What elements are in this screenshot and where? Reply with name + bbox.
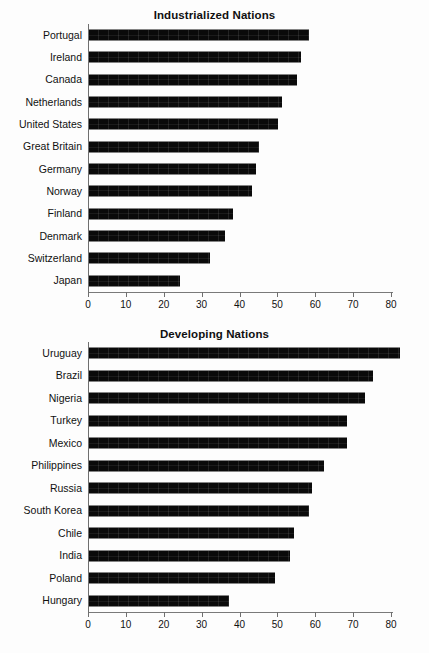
- category-label: India: [0, 550, 82, 561]
- bar-container: [89, 52, 301, 63]
- category-label: Portugal: [0, 30, 82, 41]
- category-label: Uruguay: [0, 348, 82, 359]
- bar: [89, 74, 297, 85]
- category-label: Poland: [0, 573, 82, 584]
- bar-row: Turkey: [0, 411, 429, 431]
- x-axis-tick: [202, 292, 203, 297]
- category-label: Germany: [0, 164, 82, 175]
- x-axis-line: [88, 612, 393, 613]
- category-label: Norway: [0, 186, 82, 197]
- x-axis-tick-label: 40: [234, 299, 245, 311]
- x-axis-tick-label: 80: [385, 299, 396, 311]
- bar-container: [89, 164, 256, 175]
- bar: [89, 253, 210, 264]
- bar-container: [89, 483, 312, 494]
- x-axis-tick-label: 20: [158, 619, 169, 631]
- bar: [89, 348, 400, 359]
- bar-row: Netherlands: [0, 92, 429, 112]
- bar-row: Norway: [0, 181, 429, 201]
- bar-container: [89, 393, 365, 404]
- x-axis-tick: [202, 612, 203, 617]
- x-axis-tick-label: 10: [120, 299, 131, 311]
- x-axis-tick: [277, 292, 278, 297]
- bar-row: United States: [0, 114, 429, 134]
- bar-container: [89, 231, 225, 242]
- bar: [89, 505, 309, 516]
- bar-container: [89, 348, 400, 359]
- x-axis-tick-label: 40: [234, 619, 245, 631]
- bar-row: Ireland: [0, 47, 429, 67]
- bar-row: Brazil: [0, 366, 429, 386]
- x-axis-tick-label: 60: [310, 299, 321, 311]
- plot-area-industrialized: PortugalIrelandCanadaNetherlandsUnited S…: [0, 24, 429, 292]
- x-axis-tick: [391, 292, 392, 297]
- category-label: Mexico: [0, 438, 82, 449]
- bar-row: Great Britain: [0, 137, 429, 157]
- bar: [89, 30, 309, 41]
- bar: [89, 528, 294, 539]
- bar: [89, 370, 373, 381]
- bar-rows-industrialized: PortugalIrelandCanadaNetherlandsUnited S…: [0, 24, 429, 292]
- figure-page: Industrialized Nations PortugalIrelandCa…: [0, 0, 429, 653]
- bar: [89, 141, 259, 152]
- chart-developing-nations: Developing Nations UruguayBrazilNigeriaT…: [0, 320, 429, 653]
- bar-row: Chile: [0, 523, 429, 543]
- bar-row: Canada: [0, 70, 429, 90]
- x-axis-tick-label: 70: [348, 619, 359, 631]
- bar-row: Nigeria: [0, 388, 429, 408]
- bar-row: Finland: [0, 204, 429, 224]
- bar: [89, 415, 347, 426]
- bar-container: [89, 415, 347, 426]
- category-label: Japan: [0, 275, 82, 286]
- bar: [89, 573, 275, 584]
- bar-row: Switzerland: [0, 248, 429, 268]
- bar-container: [89, 275, 180, 286]
- bar-row: Hungary: [0, 591, 429, 611]
- x-axis-tick: [126, 612, 127, 617]
- bar: [89, 438, 347, 449]
- category-label: Hungary: [0, 595, 82, 606]
- x-axis-tick: [126, 292, 127, 297]
- bar-container: [89, 505, 309, 516]
- bar-row: Mexico: [0, 433, 429, 453]
- bar-container: [89, 550, 290, 561]
- x-axis-tick-label: 0: [85, 619, 91, 631]
- category-label: Switzerland: [0, 253, 82, 264]
- category-label: Brazil: [0, 370, 82, 381]
- bar: [89, 460, 324, 471]
- category-label: Philippines: [0, 460, 82, 471]
- x-axis-tick: [353, 292, 354, 297]
- category-label: Chile: [0, 528, 82, 539]
- bar: [89, 186, 252, 197]
- x-axis-tick-label: 60: [310, 619, 321, 631]
- chart-industrialized-nations: Industrialized Nations PortugalIrelandCa…: [0, 0, 429, 320]
- x-axis-tick-label: 70: [348, 299, 359, 311]
- bar-container: [89, 74, 297, 85]
- bar-container: [89, 460, 324, 471]
- category-label: Great Britain: [0, 141, 82, 152]
- plot-area-developing: UruguayBrazilNigeriaTurkeyMexicoPhilippi…: [0, 342, 429, 612]
- bar: [89, 164, 256, 175]
- bar-rows-developing: UruguayBrazilNigeriaTurkeyMexicoPhilippi…: [0, 342, 429, 612]
- bar-container: [89, 97, 282, 108]
- bar: [89, 550, 290, 561]
- category-label: Nigeria: [0, 393, 82, 404]
- bar: [89, 393, 365, 404]
- bar: [89, 52, 301, 63]
- bar-container: [89, 528, 294, 539]
- x-axis-tick: [88, 612, 89, 617]
- bar-row: Poland: [0, 568, 429, 588]
- bar-row: Uruguay: [0, 343, 429, 363]
- bar-container: [89, 119, 278, 130]
- x-axis-tick-label: 30: [196, 299, 207, 311]
- bar-row: Portugal: [0, 25, 429, 45]
- x-axis-tick: [353, 612, 354, 617]
- bar: [89, 119, 278, 130]
- category-label: Finland: [0, 208, 82, 219]
- bar: [89, 275, 180, 286]
- x-axis-tick-label: 80: [385, 619, 396, 631]
- x-axis-industrialized: 01020304050607080: [0, 292, 429, 318]
- chart-title-industrialized: Industrialized Nations: [0, 9, 429, 21]
- x-axis-tick: [164, 612, 165, 617]
- x-axis-tick-label: 50: [272, 619, 283, 631]
